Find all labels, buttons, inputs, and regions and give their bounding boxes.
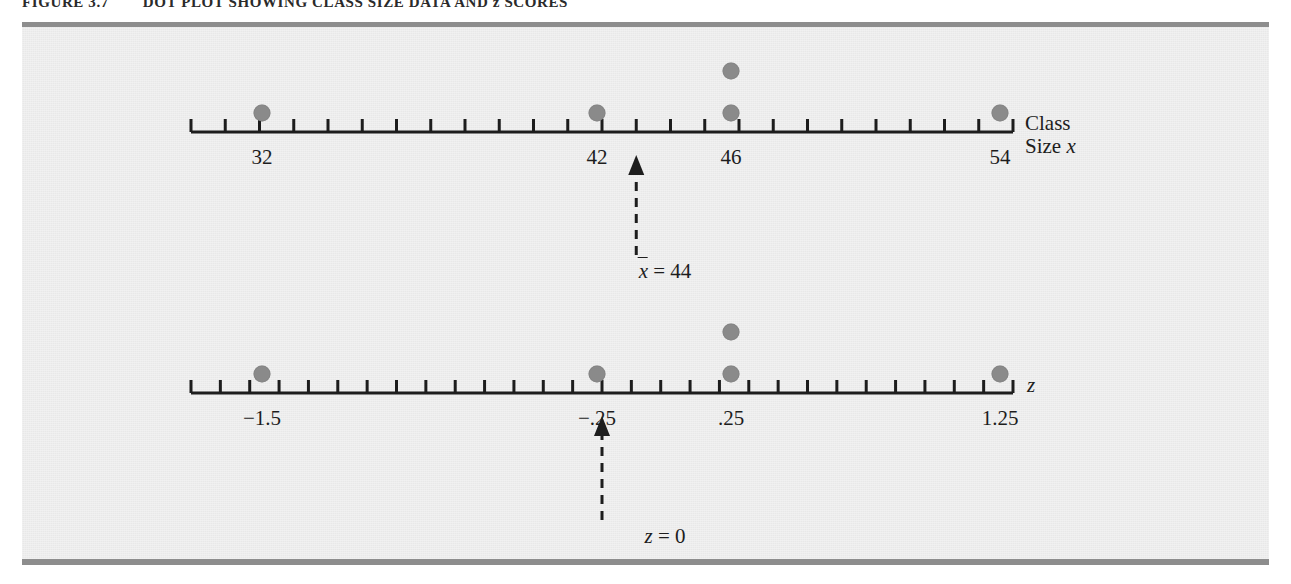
data-dot (723, 366, 740, 383)
data-dot (589, 366, 606, 383)
axis-tick-label: −.25 (578, 406, 616, 431)
z-zero-annotation: z = 0 (644, 524, 685, 549)
figure-title-text: DOT PLOT SHOWING CLASS SIZE DATA AND z S… (143, 0, 568, 10)
z-symbol: z (644, 524, 652, 548)
figure-number: FIGURE 3.7 (22, 0, 109, 10)
data-dot (254, 366, 271, 383)
z-axis-label: z (1027, 374, 1035, 397)
z-score-axis-group: −1.5 −.25 .25 1.25 z z = 0 (22, 27, 1269, 559)
figure-title: FIGURE 3.7DOT PLOT SHOWING CLASS SIZE DA… (22, 0, 1022, 12)
data-dot (723, 324, 740, 341)
axis-tick-label: .25 (718, 406, 744, 431)
data-dot (992, 366, 1009, 383)
axis-tick-label: −1.5 (243, 406, 281, 431)
z-axis-variable: z (1027, 373, 1035, 397)
z-score-axis-line (22, 27, 1269, 570)
axis-tick-label: 1.25 (982, 406, 1019, 431)
z-value-text: = 0 (653, 524, 686, 548)
plot-frame: 32 42 46 54 Class Size x x = 44 (22, 22, 1269, 565)
figure-page: FIGURE 3.7DOT PLOT SHOWING CLASS SIZE DA… (0, 0, 1291, 584)
